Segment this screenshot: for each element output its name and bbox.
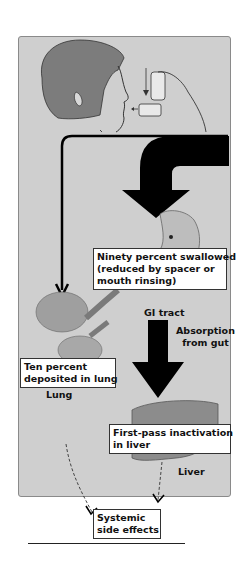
liver-systemic-dashed-arrow [158, 462, 162, 500]
systemic-label-line2: side effects [97, 524, 157, 536]
inhaler-mouthpiece [139, 104, 161, 116]
inhaler-canister [151, 72, 165, 100]
systemic-label: Systemic side effects [93, 509, 161, 539]
swallowed-label: Ninety percent swallowed (reduced by spa… [93, 248, 227, 290]
lung-systemic-dashed-arrow [66, 444, 92, 512]
lung-deposit-label: Ten percent deposited in lung [20, 358, 116, 388]
liver-label: Liver [178, 466, 205, 478]
absorption-label-line2: from gut [176, 337, 235, 349]
absorption-label: Absorption from gut [176, 325, 235, 349]
gi-tract-label: GI tract [144, 307, 184, 319]
first-pass-label: First-pass inactivation in liver [109, 424, 231, 454]
neck [100, 130, 102, 132]
first-pass-label-line1: First-pass inactivation [113, 427, 227, 439]
lung-label: Lung [46, 389, 72, 401]
lung-deposit-label-line2: deposited in lung [24, 373, 112, 385]
systemic-label-line1: Systemic [97, 512, 157, 524]
person-inhaler-illustration [41, 40, 206, 132]
swallowed-label-line2: (reduced by spacer or [97, 263, 223, 275]
swallow-big-arrow [122, 136, 229, 218]
bottom-rule [28, 543, 185, 544]
swallowed-label-line3: mouth rinsing) [97, 275, 223, 287]
swallowed-label-line1: Ninety percent swallowed [97, 251, 223, 263]
stomach-spot [169, 235, 173, 239]
absorption-label-line1: Absorption [176, 325, 235, 337]
face-outline [116, 66, 128, 132]
first-pass-label-line2: in liver [113, 439, 227, 451]
lung-illustration [36, 290, 118, 364]
hair [41, 40, 124, 119]
lung-deposit-label-line1: Ten percent [24, 361, 112, 373]
